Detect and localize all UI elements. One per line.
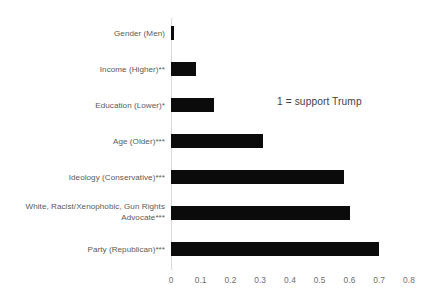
category-label-line: White, Racist/Xenophobic, Gun Rights xyxy=(6,201,165,212)
category-label: Ideology (Conservative)*** xyxy=(6,159,165,195)
category-label: White, Racist/Xenophobic, Gun Rights Adv… xyxy=(6,195,165,231)
bar xyxy=(171,170,344,184)
bar xyxy=(171,62,196,76)
category-label-line: Gender (Men) xyxy=(114,28,165,39)
bar-row: White, Racist/Xenophobic, Gun Rights Adv… xyxy=(0,195,431,231)
bar-row: Gender (Men) xyxy=(0,15,431,51)
bar xyxy=(171,206,350,220)
bar-row: Age (Older)*** xyxy=(0,123,431,159)
bar xyxy=(171,134,263,148)
category-label: Education (Lower)* xyxy=(6,87,165,123)
category-label: Gender (Men) xyxy=(6,15,165,51)
category-label: Age (Older)*** xyxy=(6,123,165,159)
category-label-line: Party (Republican)*** xyxy=(87,244,165,255)
x-tick-8: 0.8 xyxy=(389,275,429,285)
bar-row: Income (Higher)** xyxy=(0,51,431,87)
category-label-line: Ideology (Conservative)*** xyxy=(69,172,165,183)
bar xyxy=(171,242,379,256)
bar-row: Ideology (Conservative)*** xyxy=(0,159,431,195)
bar xyxy=(171,26,174,40)
category-label-line: Income (Higher)** xyxy=(100,64,165,75)
category-label-line: Education (Lower)* xyxy=(95,100,165,111)
x-axis-tick-labels: 0 0.1 0.2 0.3 0.4 0.5 0.6 0.7 0.8 xyxy=(0,275,431,289)
bar-row: Party (Republican)*** xyxy=(0,231,431,267)
bar-chart: 1 = support Trump 0 0.1 0.2 0.3 0.4 0.5 … xyxy=(0,0,431,306)
category-label: Party (Republican)*** xyxy=(6,231,165,267)
category-label-line: Advocate*** xyxy=(6,212,165,223)
category-label: Income (Higher)** xyxy=(6,51,165,87)
bar xyxy=(171,98,214,112)
bar-row: Education (Lower)* xyxy=(0,87,431,123)
category-label-line: Age (Older)*** xyxy=(113,136,165,147)
